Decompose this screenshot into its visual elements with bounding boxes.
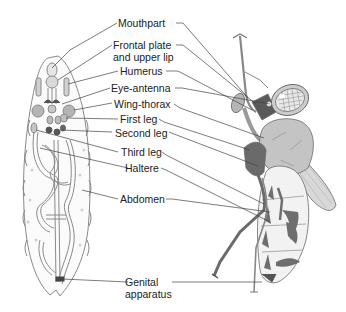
label-second-leg: Second leg	[115, 127, 168, 139]
label-first-leg: First leg	[120, 113, 157, 125]
label-genital-line2: apparatus	[125, 288, 172, 300]
label-genital-line1: Genital	[125, 276, 172, 288]
label-frontal-plate-line1: Frontal plate	[113, 39, 174, 51]
adult-fly-drawing	[212, 34, 336, 292]
label-humerus: Humerus	[120, 65, 163, 77]
label-abdomen: Abdomen	[120, 193, 165, 205]
label-frontal-plate-line2: and upper lip	[113, 51, 174, 63]
label-haltere: Haltere	[125, 162, 159, 174]
label-frontal-plate: Frontal plate and upper lip	[113, 39, 174, 63]
label-wing-thorax: Wing-thorax	[114, 98, 171, 110]
label-eye-antenna: Eye-antenna	[111, 82, 171, 94]
diagram-stage: Mouthpart Frontal plate and upper lip Hu…	[0, 0, 346, 312]
label-mouthpart: Mouthpart	[118, 17, 165, 29]
larva-drawing	[23, 56, 91, 296]
label-third-leg: Third leg	[121, 146, 162, 158]
label-genital-apparatus: Genital apparatus	[125, 276, 172, 300]
